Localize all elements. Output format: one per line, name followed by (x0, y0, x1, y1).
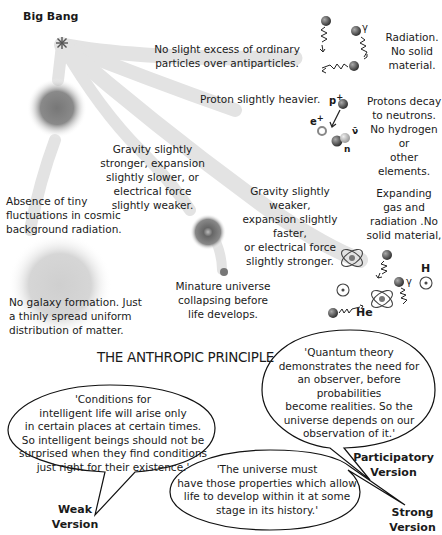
starburst-icon (56, 37, 68, 49)
gamma-symbol: γ (362, 22, 368, 33)
participatory-version-label: ParticipatoryVersion (350, 450, 437, 480)
proton-condition: Proton slightly heavier. (200, 92, 320, 106)
antiparticles-condition: No slight excess of ordinaryparticles ov… (152, 42, 302, 70)
small-universe-dot-icon (220, 268, 228, 276)
weak-version-label: WeakVersion (50, 502, 100, 532)
strong-quote: 'The universe must have those properties… (172, 463, 362, 517)
radiation-particles-icon (320, 16, 367, 73)
expanding-gas-outcome: Expandinggas andradiation .Nosolid mater… (366, 186, 442, 242)
antineutrino-symbol: ν̄ (352, 126, 358, 136)
gamma-symbol-2: γ (406, 276, 412, 287)
radiation-outcome: Radiation.No solidmaterial. (382, 30, 442, 72)
proton-outcome: Protons decayto neutrons.No hydrogen oro… (366, 94, 442, 178)
section-title: THE ANTHROPIC PRINCIPLE (97, 349, 274, 365)
strong-version-label: StrongVersion (385, 505, 440, 535)
fluctuations-condition: Absence of tinyfluctuations in cosmicbac… (6, 194, 122, 236)
no-galaxy-outcome: No galaxy formation. Justa thinly spread… (9, 295, 142, 337)
proton-symbol: p+ (329, 92, 343, 106)
collapsing-universe-icon (190, 214, 226, 250)
collapse-outcome: Minature universecollapsing beforelife d… (163, 279, 283, 321)
positron-symbol: e+ (310, 113, 324, 127)
dense-cloud-icon (27, 78, 87, 138)
weak-quote: 'Conditions for intelligent life will ar… (18, 393, 208, 474)
hydrogen-symbol: H (421, 262, 430, 275)
participatory-quote: 'Quantum theory demonstrates the need fo… (266, 346, 432, 441)
helium-symbol: He (356, 306, 373, 319)
gravity-weaker-condition: Gravity slightly weaker,expansion slight… (230, 184, 350, 268)
big-bang-label: Big Bang (23, 10, 78, 23)
neutron-symbol: n (344, 144, 350, 154)
